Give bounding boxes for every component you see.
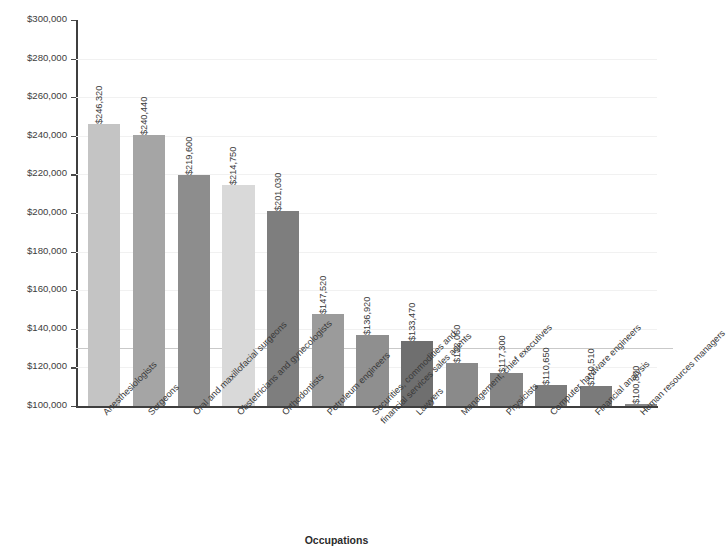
bar-value-label: $201,030: [273, 173, 287, 211]
y-tick: $120,000: [0, 367, 76, 368]
plot-area: $246,320$240,440$219,600$214,750$201,030…: [76, 20, 657, 406]
y-tick-label: $100,000: [27, 399, 67, 410]
bar-value-label: $147,520: [318, 276, 332, 314]
bar-value-label: $246,320: [94, 85, 108, 123]
y-tick: $300,000: [0, 20, 76, 21]
y-tick-label: $240,000: [27, 129, 67, 140]
y-tick-label: $200,000: [27, 206, 67, 217]
bar-value-label: $110,650: [541, 348, 555, 386]
y-tick-label: $180,000: [27, 245, 67, 256]
y-tick-label: $140,000: [27, 322, 67, 333]
y-tick: $180,000: [0, 252, 76, 253]
bar-value-label: $136,920: [362, 296, 376, 334]
bar[interactable]: $219,600: [178, 175, 210, 406]
y-tick: $200,000: [0, 213, 76, 214]
bar[interactable]: $246,320: [88, 124, 120, 406]
y-tick: $100,000: [0, 406, 76, 407]
y-tick: $280,000: [0, 59, 76, 60]
y-tick-label: $260,000: [27, 90, 67, 101]
y-tick-label: $120,000: [27, 360, 67, 371]
y-tick-label: $280,000: [27, 52, 67, 63]
x-axis-title: Occupations: [0, 534, 673, 546]
y-tick: $220,000: [0, 174, 76, 175]
bar-value-label: $214,750: [228, 146, 242, 184]
bar-value-label: $240,440: [139, 97, 153, 135]
y-tick-label: $300,000: [27, 13, 67, 24]
y-tick-mark: [71, 406, 76, 407]
y-tick: $240,000: [0, 136, 76, 137]
y-tick: $160,000: [0, 290, 76, 291]
y-tick-label: $220,000: [27, 167, 67, 178]
bar-value-label: $133,470: [407, 303, 421, 341]
y-tick: $260,000: [0, 97, 76, 98]
y-tick: $140,000: [0, 329, 76, 330]
bar-value-label: $219,600: [184, 137, 198, 175]
y-tick-label: $160,000: [27, 283, 67, 294]
